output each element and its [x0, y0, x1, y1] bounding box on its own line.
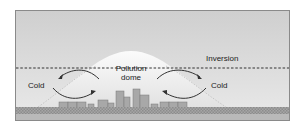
dome-label-line1: Pollution [109, 64, 153, 73]
dome-label-line2: dome [109, 73, 153, 82]
pollution-dome-label: Pollution dome [109, 64, 153, 82]
diagram-frame: Inversion Cold Cold Pollution dome [15, 10, 290, 121]
ground-strip [16, 107, 290, 114]
diagram-canvas [16, 11, 290, 121]
inversion-label: Inversion [206, 54, 238, 63]
cold-left-label: Cold [28, 81, 44, 90]
arrowhead-icon [58, 74, 63, 79]
cold-right-label: Cold [211, 81, 227, 90]
arrowhead-icon [197, 74, 202, 79]
ground-base [16, 114, 290, 121]
